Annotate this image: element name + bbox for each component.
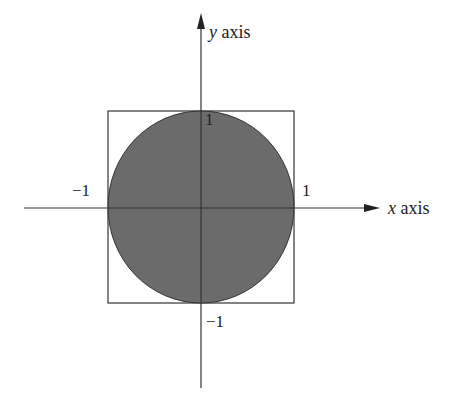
tick-x-pos: 1 — [302, 181, 311, 200]
tick-y-pos: 1 — [205, 110, 214, 129]
tick-x-neg: −1 — [72, 181, 90, 200]
y-axis-arrow-icon — [197, 13, 205, 29]
tick-y-neg: −1 — [206, 312, 224, 331]
y-axis-label: y axis — [207, 22, 251, 42]
diagram-canvas: y axis x axis 1 −1 1 −1 — [0, 0, 458, 409]
x-axis-label: x axis — [387, 198, 430, 218]
x-axis-arrow-icon — [364, 204, 380, 212]
